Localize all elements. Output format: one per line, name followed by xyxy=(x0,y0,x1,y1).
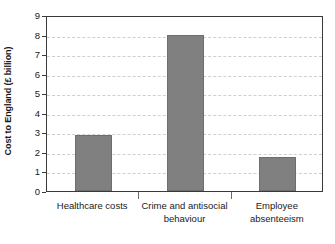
y-axis-tick-mark xyxy=(42,153,46,154)
plot-area xyxy=(46,16,323,192)
y-axis-tick-mark xyxy=(42,94,46,95)
y-axis-tick-label: 7 xyxy=(26,50,40,60)
bar xyxy=(75,135,112,191)
y-axis-tick-mark xyxy=(42,172,46,173)
y-axis-tick-label: 6 xyxy=(26,70,40,80)
x-axis-separator-tick xyxy=(231,192,232,199)
y-axis-tick-label: 2 xyxy=(26,148,40,158)
y-axis-tick-mark xyxy=(42,55,46,56)
x-axis-category-label: Employeeabsenteeism xyxy=(231,200,323,225)
y-axis-tick-mark xyxy=(42,36,46,37)
y-axis-tick-label: 4 xyxy=(26,109,40,119)
x-axis-separator-tick xyxy=(138,192,139,199)
bar xyxy=(167,35,204,191)
y-axis-tick-label: 8 xyxy=(26,31,40,41)
y-axis-tick-mark xyxy=(42,192,46,193)
x-axis-category-label-line: absenteeism xyxy=(231,213,323,226)
x-axis-tick-labels: Healthcare costsCrime and antisocialbeha… xyxy=(46,200,323,240)
bar xyxy=(259,157,296,191)
y-axis-tick-mark xyxy=(42,114,46,115)
bar-chart: Cost to England (£ billion) 0123456789 H… xyxy=(0,0,335,244)
y-axis-tick-mark xyxy=(42,133,46,134)
y-axis-title: Cost to England (£ billion) xyxy=(0,6,16,196)
x-axis-category-label: Crime and antisocialbehaviour xyxy=(138,200,230,225)
y-axis-tick-label: 9 xyxy=(26,11,40,21)
y-axis-tick-label: 5 xyxy=(26,89,40,99)
y-axis-tick-label: 1 xyxy=(26,167,40,177)
y-axis-tick-label: 3 xyxy=(26,128,40,138)
y-axis-tick-mark xyxy=(42,75,46,76)
bar-series xyxy=(47,17,322,191)
x-axis-category-label-line: behaviour xyxy=(138,213,230,226)
y-axis-tick-label: 0 xyxy=(26,187,40,197)
x-axis-category-label: Healthcare costs xyxy=(46,200,138,213)
y-axis-tick-mark xyxy=(42,16,46,17)
x-axis-category-label-line: Healthcare costs xyxy=(46,200,138,213)
x-axis-category-label-line: Employee xyxy=(231,200,323,213)
x-axis-category-label-line: Crime and antisocial xyxy=(138,200,230,213)
y-axis-tick-labels: 0123456789 xyxy=(26,16,40,192)
